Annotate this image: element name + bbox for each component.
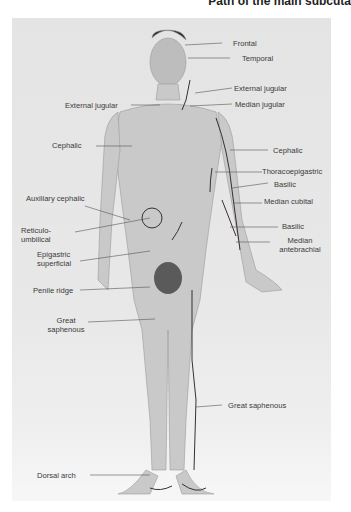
label-cephalic-right: Cephalic [273, 146, 303, 155]
label-penile-ridge: Penile ridge [33, 286, 73, 295]
label-basilic-2: Basilic [282, 222, 304, 231]
label-cephalic-left: Cephalic [52, 141, 82, 150]
label-epigastric-superficial: Epigastricsuperficial [37, 250, 71, 268]
label-auxiliary-cephalic: Auxiliary cephalic [26, 194, 85, 203]
label-great-saphenous-right: Great saphenous [228, 401, 286, 410]
label-reticulo-umbilical: Reticulo-umbilical [21, 226, 51, 244]
label-external-jugular-left: External jugular [65, 101, 118, 110]
label-temporal: Temporal [242, 54, 273, 63]
label-median-jugular: Median jugular [235, 100, 285, 109]
label-external-jugular-right: External jugular [234, 84, 287, 93]
label-thoracoepigastric: Thoracoepigastric [262, 167, 322, 176]
label-median-cubital: Median cubital [264, 197, 313, 206]
label-dorsal-arch: Dorsal arch [37, 471, 76, 480]
label-median-antebrachial: Medianantebrachial [270, 236, 330, 254]
label-frontal: Frontal [233, 39, 257, 48]
label-great-saphenous-left: Greatsaphenous [44, 316, 88, 334]
label-basilic-1: Basilic [274, 180, 296, 189]
